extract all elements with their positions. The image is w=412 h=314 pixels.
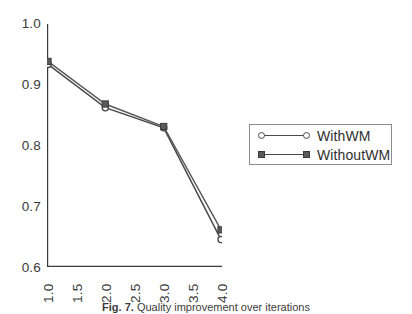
legend-item-withoutwm: WithoutWM (250, 145, 391, 164)
filled-square-icon (258, 151, 265, 158)
open-circle-icon (258, 132, 265, 139)
caption-text: Quality improvement over iterations (137, 301, 310, 313)
legend-line (261, 135, 307, 137)
legend-swatch-open-circle (257, 129, 311, 143)
open-circle-icon (303, 132, 310, 139)
figure-caption: Fig. 7. Quality improvement over iterati… (0, 301, 412, 314)
filled-square-icon (303, 151, 310, 158)
legend-label-withoutwm: WithoutWM (317, 148, 390, 162)
legend-label-withwm: WithWM (317, 129, 370, 143)
legend-item-withwm: WithWM (250, 126, 391, 145)
caption-prefix: Fig. 7. (102, 301, 134, 313)
legend-line (261, 154, 307, 156)
legend-swatch-filled-square (257, 148, 311, 162)
chart-legend: WithWM WithoutWM (249, 124, 392, 165)
